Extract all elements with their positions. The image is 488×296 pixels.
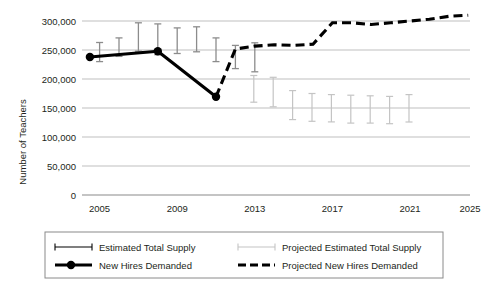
y-tick-label: 0 (71, 190, 76, 201)
y-tick-label: 50,000 (47, 161, 76, 172)
legend-label: Projected New Hires Demanded (282, 260, 418, 271)
chart-legend: Estimated Total Supply Projected Estimat… (45, 232, 443, 278)
legend-label: Projected Estimated Total Supply (282, 242, 421, 253)
x-tick-label: 2005 (89, 203, 110, 214)
x-tick-label: 2013 (244, 203, 265, 214)
legend-border (45, 232, 443, 278)
y-axis-title: Number of Teachers (17, 99, 28, 185)
y-tick-label: 300,000 (42, 16, 76, 27)
x-tick-label: 2025 (459, 203, 480, 214)
y-axis-title-text: Number of Teachers (17, 99, 28, 185)
marker-icon (67, 261, 75, 269)
legend-label: New Hires Demanded (99, 260, 192, 271)
x-tick-label: 2017 (322, 203, 343, 214)
chart-svg: Number of Teachers 300,000 250,000 200,0… (0, 0, 488, 296)
data-point-marker (212, 93, 220, 101)
x-tick-label: 2009 (167, 203, 188, 214)
teacher-supply-demand-chart: Number of Teachers 300,000 250,000 200,0… (0, 0, 488, 296)
y-tick-label: 150,000 (42, 103, 76, 114)
y-tick-label: 100,000 (42, 132, 76, 143)
data-point-marker (154, 47, 162, 55)
data-point-marker (86, 53, 94, 61)
legend-label: Estimated Total Supply (99, 242, 196, 253)
x-tick-label: 2021 (399, 203, 420, 214)
y-tick-label: 200,000 (42, 74, 76, 85)
y-tick-label: 250,000 (42, 45, 76, 56)
